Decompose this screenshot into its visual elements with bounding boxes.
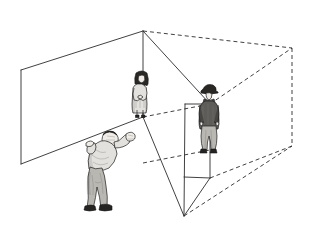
woman-shoe-right bbox=[142, 115, 146, 118]
woman-shoe-left bbox=[136, 115, 140, 118]
hidden-edge-top-back bbox=[143, 31, 292, 48]
man-right-hand-right bbox=[216, 122, 219, 126]
room-faces bbox=[21, 31, 210, 216]
scene-canvas bbox=[0, 0, 311, 231]
man-right-face bbox=[206, 93, 212, 100]
hidden-edge-mid-right bbox=[210, 146, 292, 178]
man-front-shoe-left bbox=[84, 205, 96, 211]
woman-face bbox=[138, 75, 145, 83]
man-right-hand-left bbox=[200, 122, 203, 126]
man-right-shoe-right bbox=[210, 149, 217, 153]
room-perspective-drawing bbox=[0, 0, 311, 231]
woman-hands bbox=[138, 95, 143, 99]
hidden-edge-top-right bbox=[210, 48, 292, 104]
man-front-fist bbox=[126, 132, 135, 141]
man-right-shoe-left bbox=[200, 149, 207, 153]
man-front-shoe-right bbox=[99, 204, 112, 211]
